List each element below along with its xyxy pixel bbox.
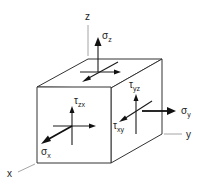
x-axis-label: x (7, 168, 12, 179)
sigma-z-label: σz (102, 30, 112, 43)
sigma-y-label: σy (181, 105, 191, 119)
z-axis-label: z (85, 11, 90, 22)
stress-cube-diagram: z y x σz τzx σx (0, 0, 204, 181)
y-axis-label: y (186, 129, 191, 140)
x-axis-line (18, 164, 35, 172)
